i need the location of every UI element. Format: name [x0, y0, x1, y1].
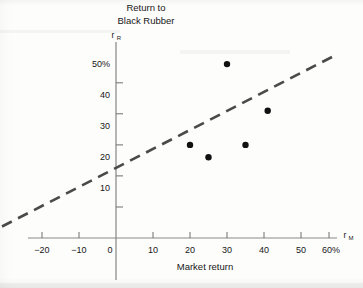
x-axis-symbol-base: r [344, 230, 347, 240]
chart-title-line-1: Return to [126, 2, 165, 13]
y-tick-label-20: 20 [100, 152, 110, 162]
x-tick-label-40: 40 [259, 245, 269, 255]
x-axis-title: Market return [177, 261, 234, 272]
x-axis-ticks [42, 232, 329, 238]
chart-title-line-2: Black Rubber [117, 15, 174, 26]
y-tick-label-40: 40 [100, 90, 110, 100]
x-tick-label-60: 60% [322, 245, 340, 255]
y-axis-symbol: r R [112, 30, 122, 41]
y-axis-symbol-subscript: R [117, 35, 122, 41]
figure-panel: Return to Black Rubber r R 50% 40 [0, 0, 363, 288]
y-axis-symbol-base: r [112, 30, 115, 40]
y-tick-label-50: 50% [92, 59, 110, 69]
scatter-chart: Return to Black Rubber r R 50% 40 [0, 0, 363, 288]
x-tick-label-10: 10 [148, 245, 158, 255]
x-axis-symbol-subscript: M [349, 235, 354, 241]
x-tick-label-30: 30 [222, 245, 232, 255]
x-tick-label-0: 0 [107, 245, 112, 255]
y-tick-label-30: 30 [100, 121, 110, 131]
characteristic-line [2, 57, 332, 227]
data-point [205, 154, 211, 160]
data-point [242, 142, 248, 148]
x-axis-symbol: r M [344, 230, 354, 241]
x-tick-label-20: 20 [185, 245, 195, 255]
x-tick-label-50: 50 [296, 245, 306, 255]
data-point [224, 61, 230, 67]
x-axis-tick-labels: −20 −10 0 10 20 30 40 50 60% [34, 245, 340, 255]
x-tick-label-neg20: −20 [34, 245, 49, 255]
x-tick-label-neg10: −10 [71, 245, 86, 255]
y-tick-label-10: 10 [100, 183, 110, 193]
y-axis-ticks [116, 83, 123, 207]
data-point [187, 142, 193, 148]
data-point [265, 108, 271, 114]
